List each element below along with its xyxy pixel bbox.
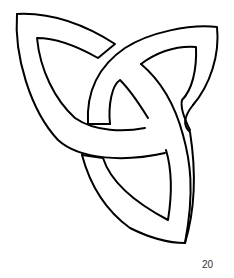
knot-lobe-left-edge (17, 14, 165, 158)
knot-lobe-bottom-inner (82, 150, 171, 220)
triquetra-knot-drawing (0, 0, 234, 278)
knot-center-ring-inner (109, 80, 148, 124)
page-number: 20 (202, 259, 213, 270)
knot-lobe-left-outer (17, 14, 145, 130)
knot-lobe-right-inner (141, 47, 196, 130)
